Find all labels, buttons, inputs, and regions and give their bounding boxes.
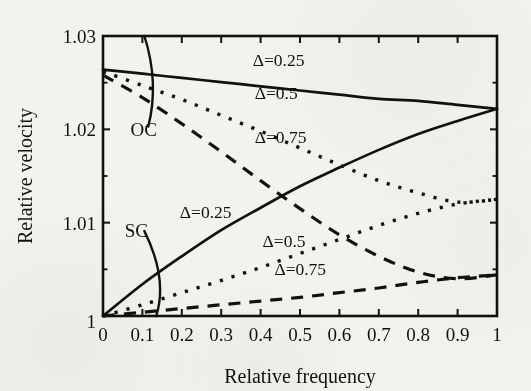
y-axis-tick-labels: 11.011.021.03 [63,26,96,332]
label-oc-delta-0-5: Δ=0.5 [255,83,298,103]
label-oc-delta-0-75: Δ=0.75 [255,127,307,147]
x-tick-label: 0.1 [131,324,155,345]
y-tick-label: 1.01 [63,213,96,234]
curve-oc-delta-0-25 [103,70,497,109]
figure-container: 00.10.20.30.40.50.60.70.80.91 11.011.021… [0,0,531,391]
x-tick-label: 0.3 [209,324,233,345]
x-tick-label: 0.6 [328,324,352,345]
relative-velocity-vs-relative-frequency-chart: 00.10.20.30.40.50.60.70.80.91 11.011.021… [0,0,531,391]
oc-leader-arc [144,36,153,127]
y-tick-label: 1.03 [63,26,96,47]
x-tick-label: 0.4 [249,324,273,345]
x-tick-label: 0.7 [367,324,391,345]
x-tick-label: 0 [98,324,108,345]
leader-arcs [144,36,160,316]
x-tick-label: 0.9 [446,324,470,345]
x-axis-title: Relative frequency [224,365,376,388]
label-sc-delta-0-75: Δ=0.75 [274,259,326,279]
region-label-sc: SC [125,220,148,241]
region-label-oc: OC [131,119,157,140]
x-tick-label: 0.5 [288,324,312,345]
x-axis-tick-labels: 00.10.20.30.40.50.60.70.80.91 [98,324,502,345]
y-tick-label: 1.02 [63,119,96,140]
label-oc-delta-0-25: Δ=0.25 [253,50,305,70]
y-axis-title: Relative velocity [14,108,37,244]
y-tick-label: 1 [87,311,97,332]
region-labels: OCSC [125,119,157,241]
x-tick-label: 0.2 [170,324,194,345]
data-curves [103,70,497,316]
label-sc-delta-0-25: Δ=0.25 [180,202,232,222]
x-tick-label: 1 [492,324,502,345]
x-tick-label: 0.8 [406,324,430,345]
label-sc-delta-0-5: Δ=0.5 [263,231,306,251]
